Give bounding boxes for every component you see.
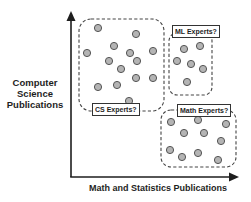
cs-experts-point xyxy=(113,81,120,88)
math-experts-point xyxy=(167,118,174,125)
cs-experts-point xyxy=(149,47,156,54)
math-experts-point xyxy=(217,137,224,144)
cs-experts-point xyxy=(132,30,139,37)
y-axis-label-line: Science xyxy=(2,88,68,99)
cs-experts-point xyxy=(94,24,101,31)
cs-experts-point xyxy=(133,57,140,64)
math-experts-point xyxy=(222,120,229,127)
ml-experts-point xyxy=(187,60,194,67)
y-axis-label-line: Publications xyxy=(2,99,68,110)
cs-experts-point xyxy=(132,74,139,81)
math-experts-point xyxy=(180,129,187,136)
cs-experts-point xyxy=(105,57,112,64)
group-boxes xyxy=(79,19,236,167)
math-experts-point xyxy=(194,116,201,123)
ml-experts-label: ML Experts? xyxy=(172,25,220,38)
math-experts-point xyxy=(214,156,221,163)
ml-experts-point xyxy=(183,78,190,85)
x-axis-arrow-icon xyxy=(229,173,239,182)
cs-experts-point xyxy=(110,42,117,49)
cs-experts-point xyxy=(94,83,101,90)
x-axis-label: Math and Statistics Publications xyxy=(78,183,238,194)
math-experts-point xyxy=(178,153,185,160)
cs-experts-point xyxy=(126,49,133,56)
cs-experts-point xyxy=(83,49,90,56)
y-axis-arrow-icon xyxy=(67,11,76,21)
cs-experts-point xyxy=(149,74,156,81)
cs-experts-label: CS Experts? xyxy=(92,103,140,116)
math-experts-point xyxy=(200,129,207,136)
ml-experts-point xyxy=(196,42,203,49)
math-experts-point xyxy=(194,149,201,156)
ml-experts-point xyxy=(173,57,180,64)
math-experts-point xyxy=(166,146,173,153)
y-axis-label: Computer Science Publications xyxy=(2,77,68,110)
cs-experts-point xyxy=(117,65,124,72)
math-experts-label: Math Experts? xyxy=(177,104,231,117)
ml-experts-point xyxy=(180,45,187,52)
ml-experts-point xyxy=(199,65,206,72)
y-axis-label-line: Computer xyxy=(2,77,68,88)
